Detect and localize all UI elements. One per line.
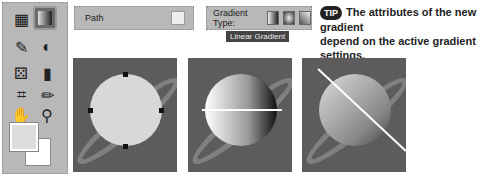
eyedropper-icon[interactable]: ✎ <box>9 35 33 59</box>
canvas-panel-2 <box>188 58 292 172</box>
canvas-panel-1 <box>73 58 177 172</box>
graph-icon[interactable]: ▮ <box>35 61 59 85</box>
shape-builder-icon[interactable]: ◐ <box>35 35 59 59</box>
freeform-gradient-button[interactable] <box>299 11 311 25</box>
planet-shape[interactable] <box>90 74 162 146</box>
gradient-tool-icon[interactable] <box>33 6 57 30</box>
gradient-type-label: Gradient Type: <box>213 8 263 28</box>
planet-rotated-gradient[interactable] <box>319 74 391 146</box>
linear-gradient-button[interactable] <box>267 11 279 25</box>
path-label: Path <box>85 13 104 23</box>
zoom-icon[interactable]: ⚲ <box>35 103 59 127</box>
tip-badge: TIP <box>320 6 342 20</box>
tip-text: TIPThe attributes of the new gradient de… <box>320 5 489 62</box>
radial-gradient-button[interactable] <box>283 11 295 25</box>
tooltip: Linear Gradient <box>226 31 289 42</box>
path-options-bar: Path <box>74 6 194 30</box>
canvas-panel-3 <box>302 58 406 172</box>
toolbox: ▦ ✎ ◐ ⚄ ▮ ⌗ ✏ ✋ ⚲ <box>2 2 68 174</box>
symbol-sprayer-icon[interactable]: ⚄ <box>9 61 33 85</box>
color-dropdown[interactable] <box>171 11 185 25</box>
fill-swatch[interactable] <box>10 123 38 151</box>
gradient-options-bar: Gradient Type: <box>206 6 312 30</box>
gradient-annotator[interactable] <box>202 109 282 111</box>
artboard-tool-icon[interactable]: ▦ <box>9 7 33 31</box>
